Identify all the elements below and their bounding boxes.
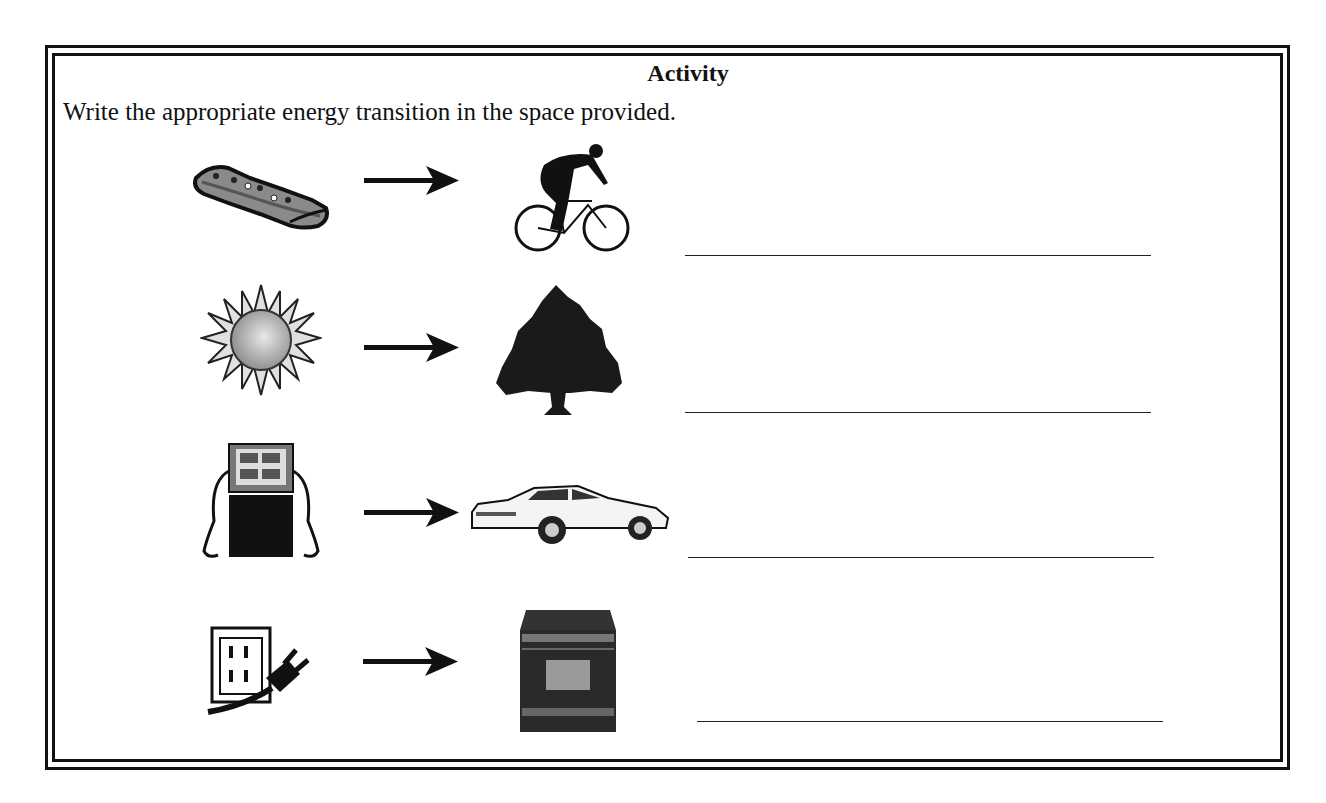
arrow-icon: [364, 333, 459, 363]
tree-icon: [494, 283, 628, 415]
answer-line-4[interactable]: [697, 721, 1163, 722]
gas-pump-icon: [200, 441, 320, 561]
arrow-icon: [364, 166, 459, 196]
sun-icon: [200, 283, 322, 398]
oven-icon: [518, 608, 618, 734]
answer-line-1[interactable]: [685, 255, 1151, 256]
page-title: Activity: [0, 60, 1326, 87]
car-icon: [468, 482, 672, 548]
arrow-icon: [364, 498, 459, 528]
electrical-outlet-icon: [204, 626, 316, 716]
arrow-icon: [363, 647, 458, 677]
answer-line-3[interactable]: [688, 557, 1154, 558]
instruction-text: Write the appropriate energy transition …: [63, 98, 676, 126]
cyclist-icon: [508, 143, 632, 255]
answer-line-2[interactable]: [685, 412, 1151, 413]
food-bar-icon: [190, 160, 332, 235]
